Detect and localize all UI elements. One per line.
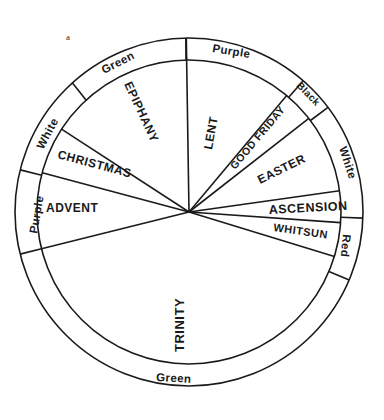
season-label-epiphany: EPIPHANY — [121, 79, 161, 144]
liturgical-year-diagram: a ADVENT CHRISTMAS EPIPHANY LENT GOOD FR… — [0, 0, 384, 420]
ring-divider-black-white — [310, 107, 328, 120]
season-label-good-friday: GOOD FRIDAY — [227, 103, 287, 171]
ring-divider-purple-white — [20, 170, 42, 175]
season-label-trinity: TRINITY — [172, 298, 187, 352]
divider-epiphany-lent — [186, 38, 189, 212]
ring-label-green-trinity: Green — [156, 371, 192, 385]
ring-divider-green-purple-left — [20, 249, 41, 254]
ring-divider-white-red — [341, 217, 363, 218]
ring-label-white-christmas: White — [34, 116, 60, 151]
ring-divider-red-green — [329, 271, 349, 280]
figure-label: a — [66, 32, 70, 42]
ring-label-red: Red — [339, 234, 353, 258]
ring-divider-white-green — [73, 83, 87, 100]
season-label-ascension: ASCENSION — [268, 199, 347, 217]
divider-trinity-advent — [42, 212, 190, 249]
season-label-whitsun: WHITSUN — [273, 221, 329, 241]
season-label-christmas: CHRISTMAS — [56, 147, 133, 180]
season-label-advent: ADVENT — [46, 201, 99, 215]
ring-label-purple-lent: Purple — [212, 42, 252, 60]
season-label-easter: EASTER — [255, 151, 308, 186]
ring-label-black: Black — [295, 80, 323, 108]
season-label-lent: LENT — [201, 115, 221, 150]
ring-label-purple-advent: Purple — [27, 195, 45, 235]
